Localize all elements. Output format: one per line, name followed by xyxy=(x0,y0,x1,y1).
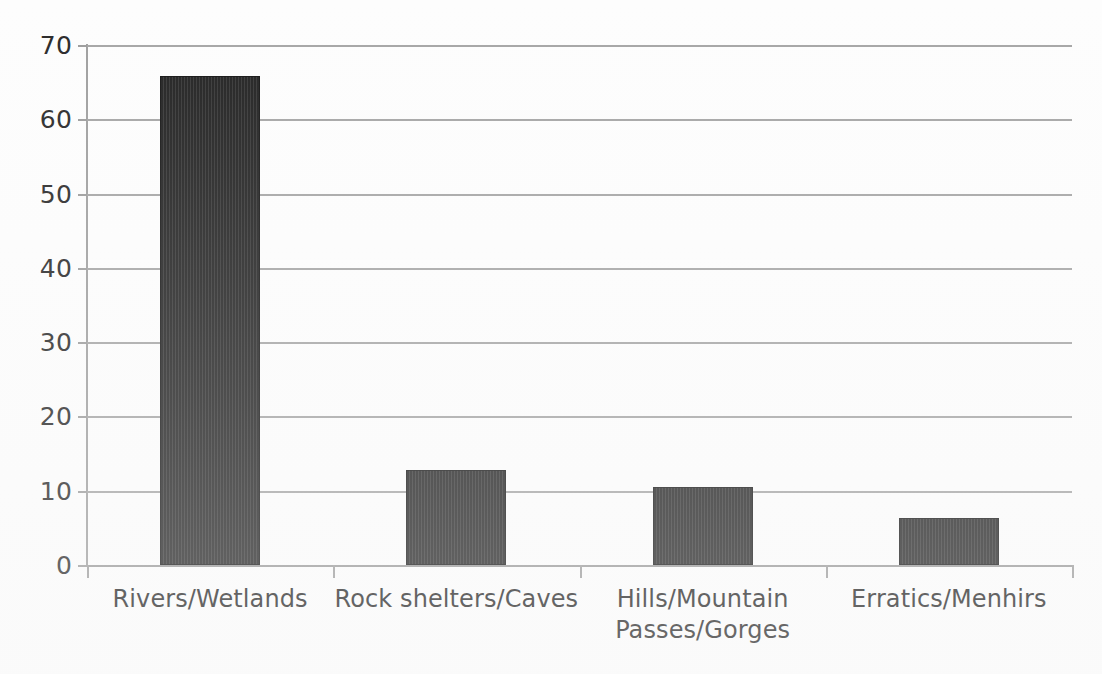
x-axis-tick-1 xyxy=(580,565,582,578)
plot-area xyxy=(87,45,1072,565)
y-axis-label-20: 20 xyxy=(0,404,72,429)
y-axis-label-70: 70 xyxy=(0,33,72,58)
y-axis-label-30: 30 xyxy=(0,330,72,355)
y-axis-label-50: 50 xyxy=(0,181,72,206)
x-axis-tick-0 xyxy=(333,565,335,578)
category-label-1: Rock shelters/Caves xyxy=(333,584,579,615)
y-axis-label-10: 10 xyxy=(0,478,72,503)
bar-1[interactable] xyxy=(406,470,506,565)
y-axis-tick-10 xyxy=(78,491,87,493)
y-axis-tick-70 xyxy=(78,45,87,47)
category-label-3-line-0: Erratics/Menhirs xyxy=(851,585,1047,613)
y-axis-label-40: 40 xyxy=(0,255,72,280)
x-axis-tick-origin xyxy=(87,565,89,578)
y-axis-tick-40 xyxy=(78,268,87,270)
y-axis-tick-0 xyxy=(78,565,87,567)
x-axis-tick-3 xyxy=(1072,565,1074,578)
y-axis-tick-30 xyxy=(78,342,87,344)
bar-0[interactable] xyxy=(160,76,260,565)
category-label-3: Erratics/Menhirs xyxy=(826,584,1072,615)
y-axis-tick-50 xyxy=(78,194,87,196)
category-label-0: Rivers/Wetlands xyxy=(87,584,333,615)
category-label-0-line-0: Rivers/Wetlands xyxy=(113,585,308,613)
y-axis-tick-60 xyxy=(78,119,87,121)
category-label-1-line-0: Rock shelters/Caves xyxy=(335,585,579,613)
bar-chart: 010203040506070 Rivers/WetlandsRock shel… xyxy=(0,0,1102,674)
category-label-2-line-0: Hills/Mountain xyxy=(617,585,789,613)
bar-2[interactable] xyxy=(653,487,753,565)
category-label-2-line-1: Passes/Gorges xyxy=(580,615,826,646)
x-axis-tick-2 xyxy=(826,565,828,578)
y-axis-label-0: 0 xyxy=(0,553,72,578)
y-axis-label-60: 60 xyxy=(0,107,72,132)
category-label-2: Hills/MountainPasses/Gorges xyxy=(580,584,826,645)
gridline-70 xyxy=(87,45,1072,47)
bar-3[interactable] xyxy=(899,518,999,565)
y-axis-tick-20 xyxy=(78,416,87,418)
